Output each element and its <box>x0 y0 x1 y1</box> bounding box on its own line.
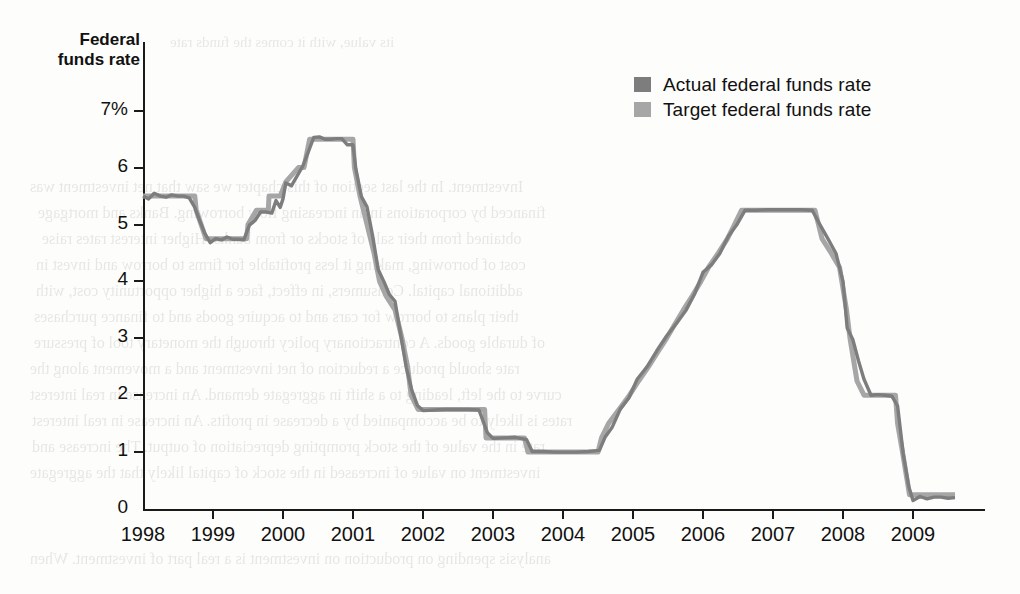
legend-label-target: Target federal funds rate <box>663 99 871 121</box>
legend-swatch-actual <box>634 77 651 92</box>
legend-swatch-target <box>634 102 651 117</box>
legend-label-actual: Actual federal funds rate <box>663 74 871 96</box>
legend-item-actual: Actual federal funds rate <box>634 72 871 97</box>
legend-item-target: Target federal funds rate <box>634 97 871 122</box>
chart-page: its value, with it comes the funds rateI… <box>0 0 1020 594</box>
chart-legend: Actual federal funds rate Target federal… <box>634 72 871 122</box>
series-line-actual <box>143 137 955 501</box>
series-line-target <box>143 139 955 495</box>
